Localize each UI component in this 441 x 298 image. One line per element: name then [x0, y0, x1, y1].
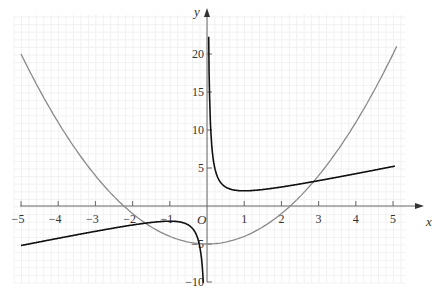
- origin-label: O: [197, 212, 207, 227]
- x-tick-label: −3: [86, 212, 99, 226]
- x-tick-label: −1: [160, 212, 173, 226]
- function-graph: −5−4−3−2−112345−10−55101520Oxy: [0, 0, 441, 298]
- y-tick-label: 5: [198, 161, 204, 175]
- x-axis-arrow-icon: [415, 203, 424, 209]
- y-axis-label: y: [192, 4, 200, 19]
- x-tick-label: 5: [390, 212, 396, 226]
- x-tick-label: 4: [353, 212, 359, 226]
- y-tick-label: −10: [185, 275, 204, 289]
- x-tick-label: 1: [241, 212, 247, 226]
- x-tick-label: −4: [49, 212, 62, 226]
- hyperbola-right-branch: [209, 37, 395, 191]
- y-tick-label: 10: [192, 123, 204, 137]
- y-axis-arrow-icon: [204, 8, 210, 17]
- y-tick-label: 15: [192, 85, 204, 99]
- hyperbola-left-branch: [21, 221, 203, 283]
- x-tick-label: 3: [316, 212, 322, 226]
- x-tick-label: −5: [12, 212, 25, 226]
- y-tick-label: 20: [192, 47, 204, 61]
- x-axis-label: x: [425, 214, 432, 229]
